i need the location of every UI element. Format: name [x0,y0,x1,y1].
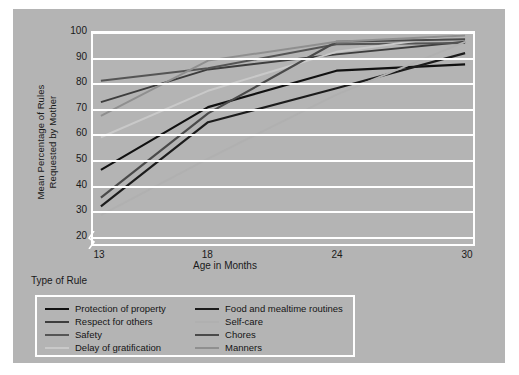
y-tick-label: 20 [61,231,87,241]
legend-swatch-icon [45,321,69,323]
series-line [101,39,465,197]
legend-item[interactable]: Self-care [195,315,353,328]
y-tick-label: 100 [61,26,87,36]
series-line [101,53,465,206]
x-axis-title: Age in Months [193,260,257,271]
legend: Protection of propertyRespect for others… [35,295,355,357]
gridline [93,32,473,34]
legend-item[interactable]: Manners [195,341,353,354]
legend-item-label: Protection of property [75,303,166,314]
y-tick-label: 40 [61,180,87,190]
y-tick-label: 70 [61,103,87,113]
legend-item[interactable]: Chores [195,328,353,341]
legend-swatch-icon [45,334,69,336]
x-axis-tick-labels: 13182430 [91,249,475,265]
y-tick-label: 50 [61,154,87,164]
gridline [93,237,473,239]
legend-item[interactable]: Delay of gratification [45,341,195,354]
gridline [93,160,473,162]
legend-item-label: Food and mealtime routines [225,303,343,314]
legend-item[interactable]: Protection of property [45,302,195,315]
legend-swatch-icon [195,334,219,336]
legend-swatch-icon [45,347,69,349]
legend-swatch-icon [195,347,219,349]
y-tick-label: 90 [61,52,87,62]
legend-item-label: Self-care [225,316,263,327]
y-axis-title: Mean Percentage of Rules Requested by Mo… [23,47,55,237]
x-tick-label: 24 [322,249,352,260]
chart-figure: Mean Percentage of Rules Requested by Mo… [13,9,505,363]
axis-break-icon [85,231,99,249]
legend-item-label: Delay of gratification [75,342,161,353]
legend-item-label: Manners [225,342,262,353]
x-tick-label: 13 [84,249,114,260]
plot-area [91,31,475,246]
legend-column-left: Protection of propertyRespect for others… [45,302,195,355]
y-tick-label: 80 [61,77,87,87]
gridline [93,109,473,111]
gridline [93,83,473,85]
x-tick-label: 18 [192,249,222,260]
legend-title: Type of Rule [31,275,87,286]
legend-swatch-icon [45,308,69,310]
legend-item-label: Respect for others [75,316,153,327]
x-tick-label: 30 [452,249,482,260]
legend-item[interactable]: Food and mealtime routines [195,302,353,315]
y-tick-label: 60 [61,128,87,138]
legend-item[interactable]: Respect for others [45,315,195,328]
legend-column-right: Food and mealtime routinesSelf-careChore… [195,302,353,355]
legend-swatch-icon [195,321,219,323]
gridline [93,58,473,60]
legend-swatch-icon [195,308,219,310]
legend-item-label: Chores [225,329,256,340]
gridline [93,186,473,188]
legend-item-label: Safety [75,329,102,340]
legend-item[interactable]: Safety [45,328,195,341]
gridline [93,211,473,213]
y-tick-label: 30 [61,205,87,215]
gridline [93,134,473,136]
y-axis-tick-labels: 2030405060708090100 [57,31,87,246]
